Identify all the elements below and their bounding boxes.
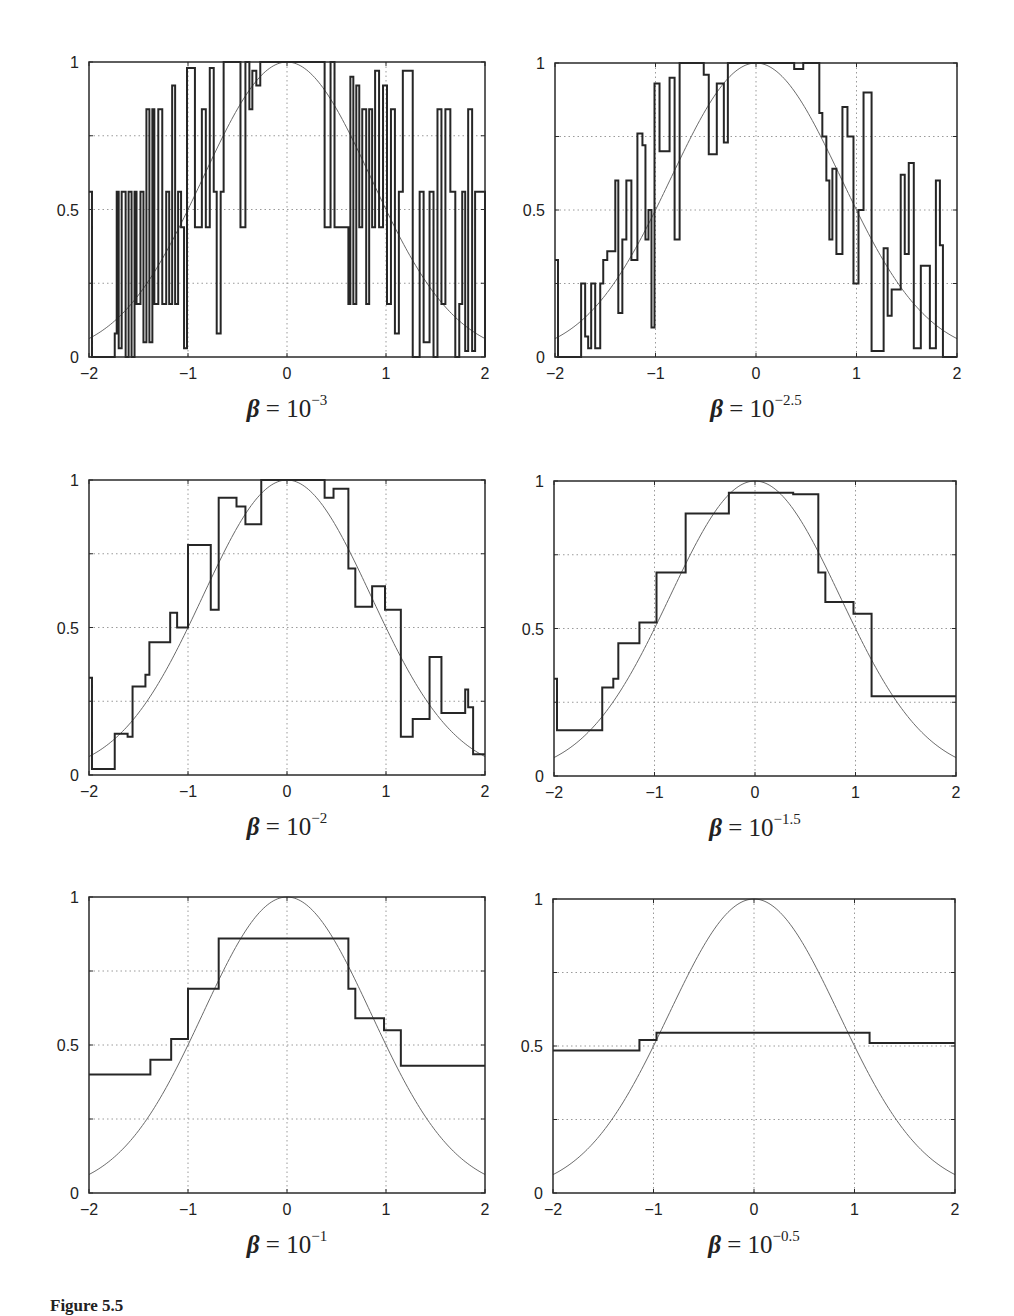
x-tick-label: −2 [544, 1201, 562, 1218]
caption-exponent: −0.5 [773, 1228, 800, 1244]
x-tick-label: 2 [951, 1201, 960, 1218]
caption-base: 10 [286, 1231, 311, 1258]
caption-beta-1e-1.5: β = 10−1.5 [709, 814, 801, 842]
beta-symbol: β [247, 1231, 260, 1258]
figure-label: Figure 5.5 [50, 1296, 123, 1316]
caption-exponent: −1.5 [774, 811, 801, 827]
axes-frame [553, 899, 955, 1193]
caption-beta-1e-2: β = 10−2 [247, 813, 327, 841]
beta-symbol: β [247, 395, 260, 422]
beta-symbol: β [709, 814, 722, 841]
y-tick-label: 1 [534, 891, 543, 908]
caption-base: 10 [750, 395, 775, 422]
caption-base: 10 [286, 395, 311, 422]
x-tick-label: 0 [750, 1201, 759, 1218]
beta-symbol: β [710, 395, 723, 422]
y-tick-label: 0.5 [521, 1038, 543, 1055]
caption-exponent: −3 [311, 392, 327, 408]
tick-marks [553, 899, 955, 1193]
grid-lines [553, 899, 955, 1193]
caption-beta-1e-2.5: β = 10−2.5 [710, 395, 802, 423]
caption-beta-1e-3: β = 10−3 [247, 395, 327, 423]
y-tick-label: 0 [534, 1185, 543, 1202]
beta-symbol: β [247, 813, 260, 840]
beta-symbol: β [708, 1231, 721, 1258]
x-tick-label: −1 [644, 1201, 662, 1218]
caption-base: 10 [749, 814, 774, 841]
caption-base: 10 [286, 813, 311, 840]
caption-beta-1e-1: β = 10−1 [247, 1231, 327, 1259]
caption-exponent: −2 [311, 810, 327, 826]
caption-beta-1e-0.5: β = 10−0.5 [708, 1231, 800, 1259]
caption-exponent: −2.5 [775, 392, 802, 408]
x-tick-label: 1 [850, 1201, 859, 1218]
caption-base: 10 [748, 1231, 773, 1258]
caption-exponent: −1 [311, 1228, 327, 1244]
